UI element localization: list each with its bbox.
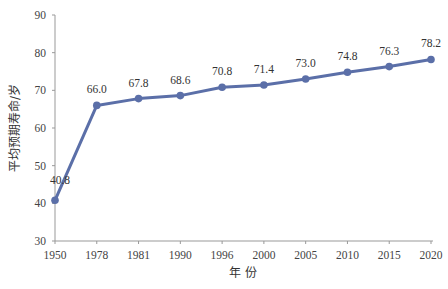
data-point-label: 76.3 <box>379 45 399 57</box>
x-tick-label: 1950 <box>44 249 67 261</box>
y-tick-label: 70 <box>35 84 47 96</box>
y-tick-label: 80 <box>35 47 47 59</box>
data-series <box>51 56 435 204</box>
x-tick-label: 1990 <box>169 249 192 261</box>
y-ticks: 30405060708090 <box>35 9 56 247</box>
data-point-marker <box>302 75 310 83</box>
data-labels: 40.866.067.868.670.871.473.074.876.378.2 <box>50 37 441 186</box>
data-point-marker <box>177 92 185 100</box>
x-tick-label: 1996 <box>211 249 234 261</box>
data-point-label: 71.4 <box>254 63 274 75</box>
data-point-marker <box>385 63 393 71</box>
data-point-marker <box>427 56 435 64</box>
x-ticks: 1950197819811990199620002005201020152020 <box>44 241 443 261</box>
x-tick-label: 1981 <box>127 249 150 261</box>
x-tick-label: 2000 <box>252 249 275 261</box>
x-axis-title: 年 份 <box>229 266 257 280</box>
data-point-label: 70.8 <box>212 65 232 77</box>
data-point-label: 68.6 <box>170 74 190 86</box>
x-tick-label: 2010 <box>336 249 359 261</box>
data-point-label: 40.8 <box>50 174 70 186</box>
data-point-marker <box>344 68 352 76</box>
x-tick-label: 2005 <box>294 249 317 261</box>
y-axis-title: 平均预期寿命/岁 <box>7 84 22 172</box>
data-point-label: 66.0 <box>87 83 107 95</box>
data-point-marker <box>51 197 59 205</box>
x-tick-label: 1978 <box>85 249 108 261</box>
y-tick-label: 60 <box>35 122 47 134</box>
data-point-marker <box>260 81 268 89</box>
y-tick-label: 50 <box>35 160 47 172</box>
x-tick-label: 2015 <box>378 249 401 261</box>
data-point-label: 73.0 <box>296 57 316 69</box>
y-tick-label: 90 <box>35 9 47 21</box>
y-tick-label: 30 <box>35 235 47 247</box>
data-point-label: 67.8 <box>128 77 148 89</box>
data-point-label: 78.2 <box>421 37 441 49</box>
data-point-marker <box>93 102 101 110</box>
x-tick-label: 2020 <box>420 249 443 261</box>
line-chart: 30405060708090 1950197819811990199620002… <box>0 0 448 289</box>
data-point-marker <box>135 95 143 103</box>
data-point-marker <box>218 84 226 92</box>
data-point-label: 74.8 <box>337 50 357 62</box>
y-tick-label: 40 <box>35 197 47 209</box>
axes <box>55 15 433 241</box>
series-line <box>55 59 431 200</box>
